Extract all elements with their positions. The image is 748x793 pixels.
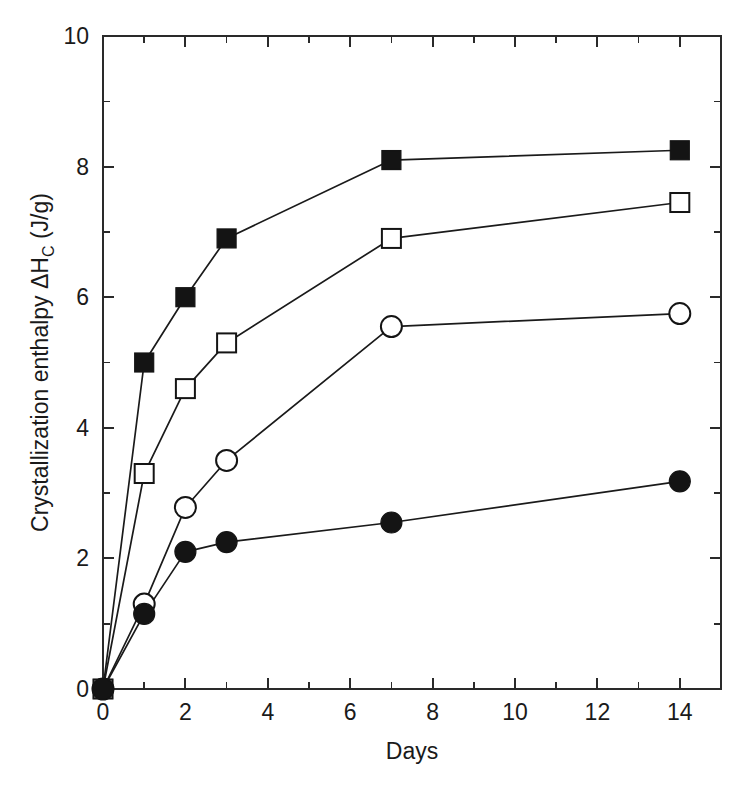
data-point-filled-square [217, 229, 236, 248]
data-point-filled-circle [669, 471, 690, 492]
x-tick-label: 6 [344, 699, 357, 725]
x-tick-label: 12 [585, 699, 611, 725]
x-tick-label: 4 [261, 699, 274, 725]
y-tick-label: 4 [76, 415, 89, 441]
x-tick-label: 10 [502, 699, 528, 725]
data-point-open-circle [669, 303, 690, 324]
tick-labels-group: 024681002468101214 [63, 23, 692, 725]
y-axis-title-units: (J/g) [27, 193, 53, 245]
chart-canvas: 024681002468101214 DaysCrystallization e… [0, 0, 748, 793]
data-point-filled-square [135, 353, 154, 372]
data-point-open-circle [381, 316, 402, 337]
y-axis-title: Crystallization enthalpy ΔHC (J/g) [27, 193, 57, 532]
data-point-open-square [217, 333, 236, 352]
data-point-filled-circle [134, 603, 155, 624]
data-point-filled-circle [216, 532, 237, 553]
data-point-filled-square [382, 151, 401, 170]
y-axis-title-subscript: C [40, 245, 57, 257]
data-point-open-circle [175, 497, 196, 518]
y-tick-label: 0 [76, 676, 89, 702]
ticks-group [103, 36, 721, 689]
data-series-group [93, 141, 691, 700]
x-tick-label: 14 [667, 699, 693, 725]
data-point-filled-circle [175, 541, 196, 562]
figure-container: 024681002468101214 DaysCrystallization e… [0, 0, 748, 793]
y-tick-label: 6 [76, 284, 89, 310]
x-axis-title: Days [386, 738, 438, 764]
data-point-open-square [135, 464, 154, 483]
axes-group [103, 36, 721, 689]
data-point-filled-circle [93, 679, 114, 700]
series-line-open-square [103, 203, 680, 689]
x-tick-label: 8 [426, 699, 439, 725]
data-point-filled-square [670, 141, 689, 160]
plot-frame [103, 36, 721, 689]
y-tick-label: 8 [76, 154, 89, 180]
y-axis-title-main: Crystallization enthalpy ΔH [27, 257, 53, 532]
data-point-open-square [670, 193, 689, 212]
y-tick-label: 10 [63, 23, 89, 49]
data-point-filled-square [176, 288, 195, 307]
x-tick-label: 0 [97, 699, 110, 725]
y-tick-label: 2 [76, 545, 89, 571]
data-point-open-square [382, 229, 401, 248]
x-tick-label: 2 [179, 699, 192, 725]
data-point-open-circle [216, 450, 237, 471]
data-point-open-square [176, 379, 195, 398]
data-point-filled-circle [381, 512, 402, 533]
